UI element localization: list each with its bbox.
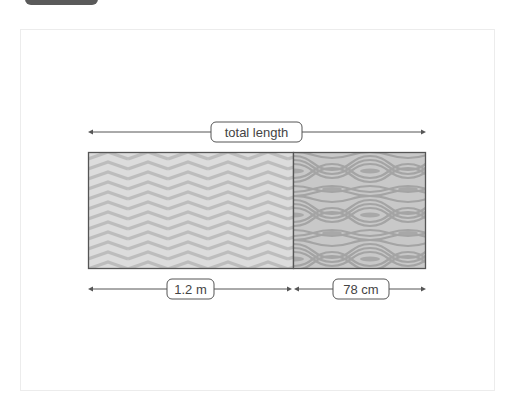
total-length-label: total length xyxy=(225,125,289,140)
arrow-right-icon xyxy=(421,130,426,135)
segment-1-label: 1.2 m xyxy=(174,282,207,297)
segment-2-label: 78 cm xyxy=(343,282,378,297)
arrow-right-icon xyxy=(287,287,292,292)
arrow-left-icon xyxy=(88,287,93,292)
length-diagram: total length 1.2 m 78 cm xyxy=(0,0,510,400)
segment-1-dimension: 1.2 m xyxy=(88,279,292,299)
total-length-dimension: total length xyxy=(88,122,426,142)
arrow-left-icon xyxy=(88,130,93,135)
arrow-right-icon xyxy=(421,287,426,292)
segment-2-dimension: 78 cm xyxy=(294,279,426,299)
segment-1-chevron-rect xyxy=(89,153,294,269)
segment-2-wave-rect xyxy=(294,153,426,269)
arrow-left-icon xyxy=(294,287,299,292)
